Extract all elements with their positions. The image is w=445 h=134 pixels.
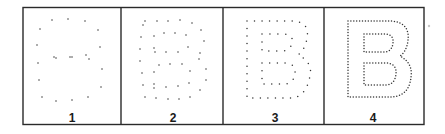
dot <box>284 62 286 64</box>
dot <box>363 36 365 38</box>
dot <box>409 82 411 84</box>
dot <box>347 26 349 28</box>
dot <box>395 75 397 77</box>
dot <box>391 82 393 84</box>
dot <box>392 45 394 47</box>
dot <box>399 22 401 24</box>
dot <box>101 68 103 70</box>
dot <box>140 36 142 38</box>
dot <box>407 34 409 36</box>
dot <box>292 64 294 66</box>
dot <box>364 96 366 98</box>
dot <box>139 60 141 62</box>
dot <box>404 50 406 52</box>
speck <box>428 25 430 27</box>
dot <box>188 82 190 84</box>
dot <box>356 20 358 22</box>
dot <box>267 97 269 99</box>
dot <box>177 51 179 53</box>
dot <box>153 71 155 73</box>
dot <box>347 96 349 98</box>
dot <box>347 90 349 92</box>
dot <box>410 70 412 72</box>
dot <box>261 70 263 72</box>
dot <box>84 20 86 22</box>
panel-4-dot-group <box>347 20 412 98</box>
dot <box>246 35 248 37</box>
dot <box>404 92 406 94</box>
dot <box>384 33 386 35</box>
dot <box>144 96 146 98</box>
dot <box>153 87 155 89</box>
dot <box>406 28 408 30</box>
dot <box>290 97 292 99</box>
dot <box>388 20 390 22</box>
dot <box>393 96 395 98</box>
dot <box>302 57 304 59</box>
dot <box>367 96 369 98</box>
dot <box>246 50 248 52</box>
dot <box>246 80 248 82</box>
dot <box>363 62 365 64</box>
dot <box>303 91 305 93</box>
dot <box>386 51 388 53</box>
dot <box>370 20 372 22</box>
dot <box>141 72 143 74</box>
dot <box>407 36 409 38</box>
dot <box>375 33 377 35</box>
dot <box>363 33 365 35</box>
dot <box>363 74 365 76</box>
dot <box>396 95 398 97</box>
dot <box>366 62 368 64</box>
dot <box>408 84 410 86</box>
panel-1-sparse-dots: 1 <box>36 18 103 125</box>
dot-to-dot-letter-b-figure: 1 2 3 4 <box>0 0 445 134</box>
dot <box>181 63 183 65</box>
dot <box>406 45 408 47</box>
dot <box>297 96 299 98</box>
dot <box>282 97 284 99</box>
dot <box>347 35 349 37</box>
dot <box>55 57 57 59</box>
panel-4-dense-dotted-b: 4 <box>347 20 412 125</box>
dot <box>381 33 383 35</box>
dot <box>363 39 365 41</box>
dot <box>379 84 381 86</box>
dot <box>389 50 391 52</box>
dot <box>286 83 288 85</box>
dot <box>391 36 393 38</box>
dot <box>407 31 409 33</box>
dot <box>165 51 167 53</box>
dot <box>363 77 365 79</box>
dot <box>199 89 201 91</box>
dot <box>379 20 381 22</box>
dot <box>373 20 375 22</box>
dot <box>261 41 263 43</box>
dot <box>396 21 398 23</box>
dot <box>376 84 378 86</box>
dot <box>284 50 286 52</box>
dot <box>370 96 372 98</box>
dot <box>71 99 73 101</box>
dot <box>292 79 294 81</box>
dot <box>36 44 38 46</box>
dot <box>261 62 263 64</box>
dot <box>271 83 273 85</box>
dot <box>347 81 349 83</box>
dot <box>187 46 189 48</box>
dot <box>347 55 349 57</box>
dot <box>361 96 363 98</box>
dot <box>169 63 171 65</box>
dot <box>269 62 271 64</box>
dot <box>382 84 384 86</box>
dot <box>392 42 394 44</box>
dot <box>379 96 381 98</box>
dot <box>350 96 352 98</box>
dot <box>347 32 349 34</box>
dot <box>67 18 69 20</box>
dot <box>393 80 395 82</box>
dot <box>376 20 378 22</box>
dot <box>165 86 167 88</box>
dot <box>347 46 349 48</box>
dot <box>363 42 365 44</box>
